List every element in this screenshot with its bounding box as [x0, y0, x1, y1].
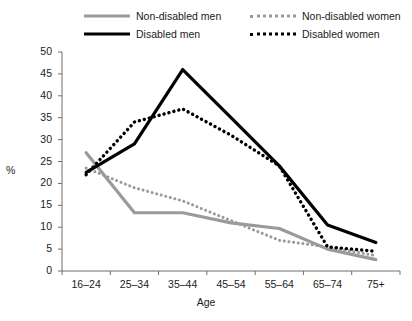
x-axis-title: Age [0, 296, 412, 308]
chart-canvas [0, 44, 412, 321]
legend-item-disabled-women: Disabled women [250, 26, 380, 42]
legend-label: Non-disabled women [302, 10, 401, 22]
legend-swatch-solid-black-icon [84, 28, 130, 40]
plot-area: % 05101520253035404550 16–2425–3435–4445… [0, 44, 412, 321]
legend-label: Disabled women [302, 28, 380, 40]
legend-label: Non-disabled men [136, 10, 221, 22]
series-line-non-disabled-women [86, 168, 376, 256]
legend-item-non-disabled-men: Non-disabled men [84, 8, 221, 24]
legend-swatch-dotted-gray-icon [250, 10, 296, 22]
legend-swatch-solid-gray-icon [84, 10, 130, 22]
series-line-disabled-men [86, 70, 376, 243]
legend-item-disabled-men: Disabled men [84, 26, 200, 42]
series-line-disabled-women [86, 109, 376, 251]
chart-legend: Non-disabled men Non-disabled women Disa… [84, 8, 404, 44]
chart-figure: Non-disabled men Non-disabled women Disa… [0, 0, 412, 321]
legend-item-non-disabled-women: Non-disabled women [250, 8, 401, 24]
legend-label: Disabled men [136, 28, 200, 40]
legend-swatch-dotted-black-icon [250, 28, 296, 40]
series-line-non-disabled-men [86, 153, 376, 260]
